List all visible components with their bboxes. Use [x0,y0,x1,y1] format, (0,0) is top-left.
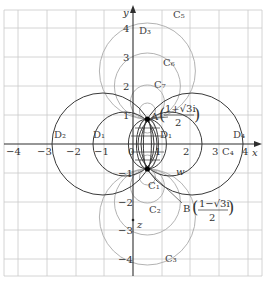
label-C1: C₁ [148,180,160,191]
label-w: w [176,166,185,177]
y-axis-arrow-icon [130,5,136,13]
point-A [145,116,150,121]
label-D1-left: D₁ [93,129,105,140]
point-B [145,166,150,171]
svg-text:2: 2 [123,81,129,92]
svg-text:−3: −3 [37,146,52,157]
svg-text:−4: −4 [6,146,21,157]
y-axis-label: y [122,7,129,18]
complex-plane-diagram: x y −4 −3 −2 −1 0 1 2 3 4 4 3 2 1 −1 −2 … [0,0,266,281]
svg-text:−2: −2 [66,146,81,157]
svg-text:(: ( [192,198,198,217]
circle-labels: C₅ D₃ C₆ C₇ D₂ D₁ D₁ D₄ C₄ C₁ C₂ C₃ [54,9,245,264]
svg-text:0: 0 [128,146,134,157]
label-A: A [150,111,159,122]
label-D1-right: D₁ [160,129,172,140]
label-D2: D₂ [54,129,66,140]
x-tick-labels: −4 −3 −2 −1 0 1 2 3 4 [6,146,248,157]
svg-text:3: 3 [212,146,218,157]
svg-text:−3: −3 [118,225,133,236]
label-A-num: 1+√3i [165,103,196,114]
label-B-num: 1−√3i [199,198,230,209]
label-C5: C₅ [173,9,185,20]
svg-text:−2: −2 [118,197,133,208]
label-B-den: 2 [209,212,215,223]
label-A-den: 2 [175,117,181,128]
svg-text:4: 4 [242,146,248,157]
label-C3: C₃ [165,253,177,264]
x-axis-label: x [252,147,258,158]
svg-text:): ) [194,105,200,124]
svg-text:−4: −4 [118,254,133,265]
label-C2: C₂ [149,204,161,215]
label-C7: C₇ [154,79,166,90]
svg-text:): ) [228,198,234,217]
svg-text:1: 1 [123,110,129,121]
svg-text:2: 2 [183,146,189,157]
label-D3: D₃ [139,25,151,36]
label-z: z [136,219,143,230]
label-C4: C₄ [222,146,234,157]
svg-text:−1: −1 [118,168,133,179]
label-D4: D₄ [233,129,245,140]
label-A-paren: ( [159,105,165,124]
svg-text:−1: −1 [94,146,109,157]
svg-text:1: 1 [155,146,161,157]
point-z [132,219,135,222]
label-B: B [183,203,190,214]
svg-text:4: 4 [123,23,129,34]
svg-text:3: 3 [123,52,129,63]
label-C6: C₆ [163,57,175,68]
